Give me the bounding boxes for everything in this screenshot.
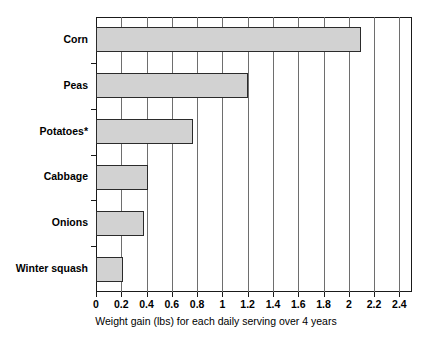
x-axis-tick-1.4 <box>273 292 274 297</box>
x-axis-tick-1.2 <box>248 292 249 297</box>
bar-cabbage <box>96 165 148 190</box>
x-axis-tick-0.6 <box>172 292 173 297</box>
x-axis-tick-2 <box>349 292 350 297</box>
x-axis-tick-1.6 <box>298 292 299 297</box>
x-axis-tick-0.8 <box>197 292 198 297</box>
y-axis-tick-3 <box>91 200 96 201</box>
bars-group <box>96 17 412 292</box>
x-axis-caption: Weight gain (lbs) for each daily serving… <box>0 315 432 327</box>
y-axis-label-cabbage: Cabbage <box>44 170 88 182</box>
x-axis-tick-label-1.6: 1.6 <box>291 298 306 310</box>
x-axis-tick-0.2 <box>121 292 122 297</box>
bar-winter-squash <box>96 257 123 282</box>
x-axis-tick-label-1.4: 1.4 <box>266 298 281 310</box>
x-axis-tick-label-1.2: 1.2 <box>240 298 255 310</box>
y-axis-tick-0 <box>91 63 96 64</box>
y-axis-label-corn: Corn <box>64 33 89 45</box>
y-axis-tick-1 <box>91 109 96 110</box>
y-axis-label-onions: Onions <box>52 216 88 228</box>
y-axis-label-winter-squash: Winter squash <box>16 262 88 274</box>
x-axis-tick-1 <box>222 292 223 297</box>
y-axis-tick-4 <box>91 246 96 247</box>
x-axis-tick-2.2 <box>374 292 375 297</box>
chart-page: CornPeasPotatoes*CabbageOnionsWinter squ… <box>0 0 432 343</box>
x-axis-tick-label-0.6: 0.6 <box>165 298 180 310</box>
x-axis-tick-label-2.2: 2.2 <box>367 298 382 310</box>
y-axis-category-labels: CornPeasPotatoes*CabbageOnionsWinter squ… <box>0 17 92 292</box>
x-axis-tick-0.4 <box>147 292 148 297</box>
x-axis-tick-label-0: 0 <box>93 298 99 310</box>
x-axis-tick-label-2: 2 <box>346 298 352 310</box>
x-axis-tick-0 <box>96 292 97 297</box>
x-axis-tick-label-0.2: 0.2 <box>114 298 129 310</box>
bar-peas <box>96 73 248 98</box>
x-axis-tick-label-1: 1 <box>219 298 225 310</box>
x-axis-tick-label-0.8: 0.8 <box>190 298 205 310</box>
x-axis-tick-1.8 <box>324 292 325 297</box>
bar-onions <box>96 211 144 236</box>
x-axis-tick-label-2.4: 2.4 <box>392 298 407 310</box>
y-axis-label-potatoes: Potatoes* <box>40 125 88 137</box>
x-axis-tick-label-1.8: 1.8 <box>316 298 331 310</box>
bar-potatoes <box>96 119 193 144</box>
y-axis-tick-2 <box>91 155 96 156</box>
bar-corn <box>96 27 361 52</box>
y-axis-label-peas: Peas <box>63 79 88 91</box>
x-axis-tick-2.4 <box>399 292 400 297</box>
x-axis-tick-label-0.4: 0.4 <box>139 298 154 310</box>
